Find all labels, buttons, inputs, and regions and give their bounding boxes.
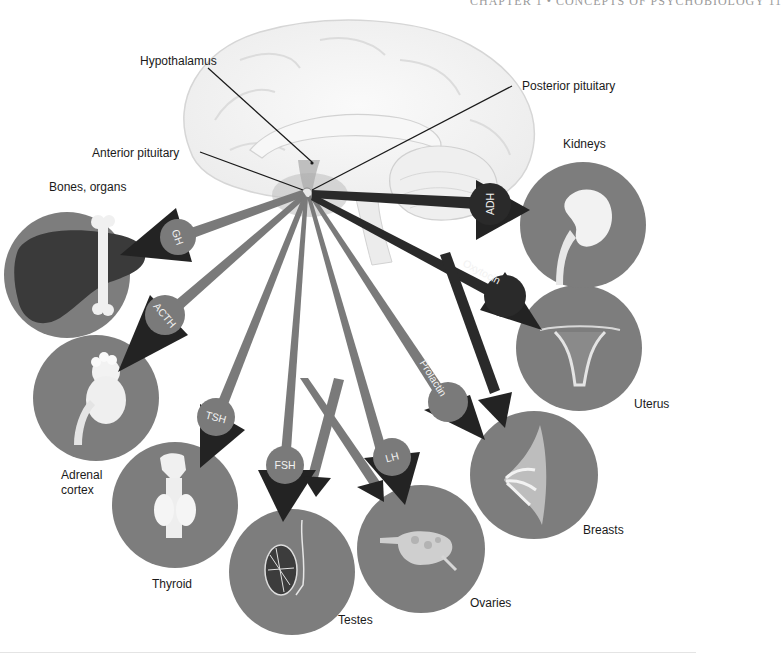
badge-fsh: FSH: [266, 446, 304, 484]
fsh-stem: [280, 197, 308, 465]
breasts-label: Breasts: [583, 523, 624, 537]
thyroid-label: Thyroid: [152, 577, 192, 591]
testes-label: Testes: [338, 613, 373, 627]
bottom-divider: [0, 652, 696, 653]
adrenal-label-line2: cortex: [61, 483, 94, 497]
uterus-label: Uterus: [634, 397, 669, 411]
badge-acth: ACTH: [145, 295, 185, 335]
adrenal-label-line1: Adrenal: [61, 468, 102, 482]
badge-lh: LH: [373, 438, 411, 476]
anterior-pituitary-label: Anterior pituitary: [92, 146, 179, 160]
bones-organs-label: Bones, organs: [49, 180, 126, 194]
badge-tsh: TSH: [197, 398, 235, 436]
ovaries-label: Ovaries: [470, 596, 511, 610]
posterior-pituitary-label: Posterior pituitary: [522, 79, 615, 93]
hypothalamus-label: Hypothalamus: [140, 54, 217, 68]
kidneys-label: Kidneys: [563, 137, 606, 151]
badge-prolactin: Prolactin: [417, 357, 468, 422]
lh-testes-arrowhead: [303, 476, 331, 497]
svg-text:ADH: ADH: [484, 193, 496, 215]
badge-gh: GH: [160, 219, 196, 255]
svg-text:FSH: FSH: [275, 459, 296, 471]
leader-dots: [310, 161, 313, 164]
badge-adh: ADH: [469, 183, 511, 225]
